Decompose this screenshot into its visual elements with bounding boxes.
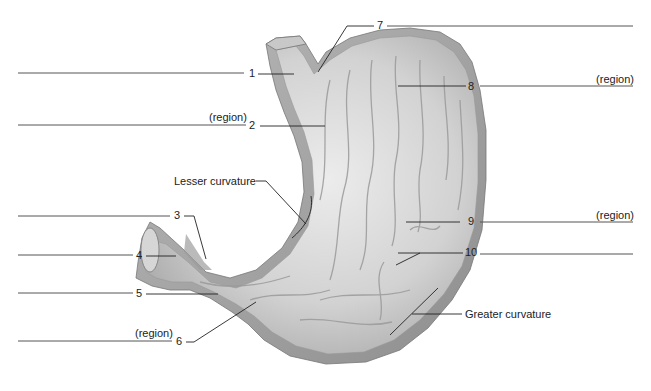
label-qualifier-9: (region): [596, 209, 634, 221]
label-number-8: 8: [468, 80, 474, 92]
label-qualifier-8: (region): [596, 73, 634, 85]
label-number-1: 1: [249, 67, 255, 79]
label-number-7: 7: [377, 19, 383, 31]
label-number-9: 9: [468, 215, 474, 227]
duodenum-opening: [141, 228, 159, 272]
label-number-10: 10: [465, 246, 477, 258]
label-number-5: 5: [136, 287, 142, 299]
stomach-diagram: 1 (region) 2 3 4 5 (region) 6 7 8 (regio…: [0, 0, 651, 391]
label-lesser-curvature: Lesser curvature: [174, 175, 256, 187]
label-qualifier-6: (region): [135, 327, 173, 339]
label-number-2: 2: [249, 119, 255, 131]
label-qualifier-2: (region): [209, 111, 247, 123]
label-number-3: 3: [174, 209, 180, 221]
label-number-4: 4: [136, 249, 142, 261]
label-greater-curvature: Greater curvature: [465, 308, 551, 320]
label-number-6: 6: [176, 335, 182, 347]
